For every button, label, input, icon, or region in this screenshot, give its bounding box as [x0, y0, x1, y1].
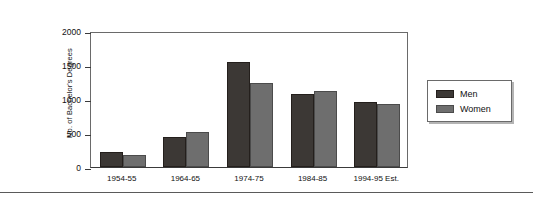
bars-layer [91, 33, 407, 167]
bar-group [351, 33, 403, 167]
y-axis-tick-label: 2000 [62, 27, 81, 37]
y-axis-tick-label: 1500 [62, 61, 81, 71]
legend-swatch-men-icon [436, 90, 454, 98]
bar-group [224, 33, 276, 167]
bar-men-1974-75 [227, 62, 250, 167]
y-axis-tick-label: 500 [67, 129, 81, 139]
page-divider-rule [0, 192, 533, 193]
chart-legend: Men Women [427, 80, 512, 122]
bar-group [160, 33, 212, 167]
bar-men-1984-85 [291, 94, 314, 167]
legend-label-women: Women [460, 104, 491, 114]
legend-swatch-women-icon [436, 105, 454, 113]
legend-item-men: Men [436, 87, 478, 101]
bar-women-1994-95-est- [377, 104, 400, 167]
figure-frame: No. of Bachelor's Degrees 05001000150020… [15, 10, 518, 188]
legend-item-women: Women [436, 102, 491, 116]
bar-men-1994-95-est- [354, 102, 377, 167]
bar-women-1954-55 [123, 155, 146, 167]
bar-men-1964-65 [163, 137, 186, 167]
bar-group [288, 33, 340, 167]
bar-group [97, 33, 149, 167]
x-axis-label-1994-95-est-: 1994-95 Est. [336, 174, 416, 183]
y-axis-tick-label: 1000 [62, 95, 81, 105]
bar-women-1984-85 [314, 91, 337, 167]
y-axis-tick: 0 [85, 169, 91, 170]
bar-women-1964-65 [186, 132, 209, 167]
legend-label-men: Men [460, 89, 478, 99]
y-axis-tick-label: 0 [76, 163, 81, 173]
y-axis-title: No. of Bachelor's Degrees [65, 25, 79, 161]
chart-plot-area: No. of Bachelor's Degrees 05001000150020… [90, 32, 408, 168]
bar-women-1974-75 [250, 83, 273, 167]
bar-men-1954-55 [100, 152, 123, 167]
